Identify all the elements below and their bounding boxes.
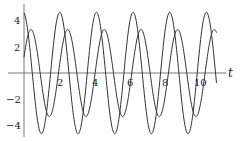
y-tick-neg2: −2 [6, 94, 21, 105]
y-tick-2: 2 [14, 42, 20, 53]
chart: t 2 4 6 8 10 4 2 −2 −4 [0, 0, 240, 141]
y-tick-4: 4 [14, 15, 20, 26]
x-axis-label: t [228, 66, 233, 80]
y-tick-neg4: −4 [6, 120, 21, 131]
